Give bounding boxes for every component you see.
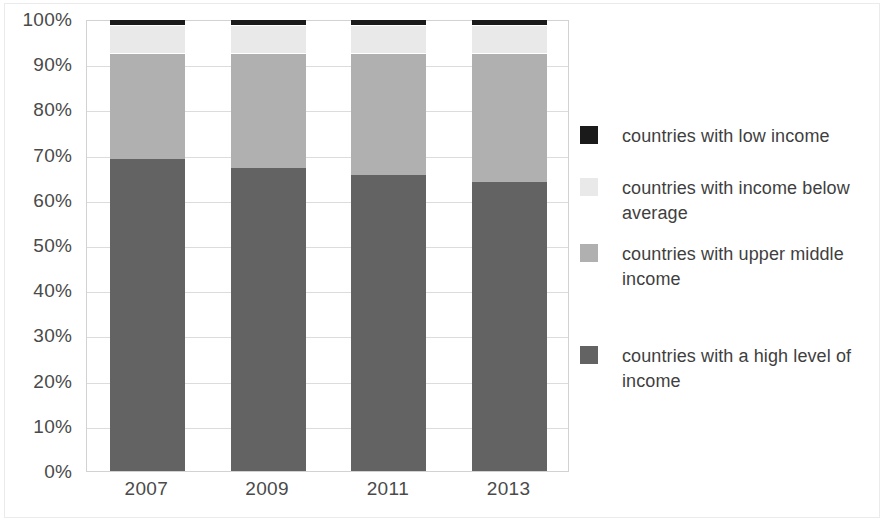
bar-2011[interactable] [351,19,426,471]
bar-segment[interactable] [110,19,185,25]
y-tick-label: 70% [33,145,72,167]
stacked-bar-chart: 0%10%20%30%40%50%60%70%80%90%100% 200720… [0,0,885,524]
bar-segment[interactable] [472,53,547,182]
bar-segment[interactable] [231,19,306,25]
y-tick-label: 40% [33,280,72,302]
bar-segment[interactable] [231,53,306,168]
bar-segment[interactable] [231,25,306,53]
y-tick-label: 90% [33,54,72,76]
bar-segment[interactable] [351,53,426,175]
bar-segment[interactable] [231,168,306,471]
y-axis: 0%10%20%30%40%50%60%70%80%90%100% [0,20,78,472]
legend-item-label: countries with low income [622,124,830,149]
bar-2013[interactable] [472,19,547,471]
legend-swatch-icon [580,178,598,196]
x-axis: 2007200920112013 [86,478,569,512]
bar-2007[interactable] [110,19,185,471]
legend-item[interactable]: countries with a high level of income [580,344,878,394]
x-tick-label: 2011 [367,478,409,500]
y-tick-label: 60% [33,190,72,212]
y-tick-label: 0% [44,461,72,483]
x-tick-label: 2007 [124,478,168,500]
legend-item[interactable]: countries with income below average [580,176,878,226]
legend-swatch-icon [580,126,598,144]
bar-2009[interactable] [231,19,306,471]
legend-item-label: countries with income below average [622,176,878,226]
y-tick-label: 80% [33,99,72,121]
bar-segment[interactable] [351,25,426,53]
bar-segment[interactable] [472,182,547,471]
plot-area [86,20,569,472]
y-tick-label: 50% [33,235,72,257]
bar-segment[interactable] [472,25,547,53]
bar-segment[interactable] [110,25,185,53]
x-tick-label: 2009 [245,478,289,500]
legend-swatch-icon [580,346,598,364]
legend-item-label: countries with a high level of income [622,344,878,394]
legend-item[interactable]: countries with upper middle income [580,242,878,292]
x-tick-label: 2013 [487,478,531,500]
y-tick-label: 20% [33,371,72,393]
y-tick-label: 30% [33,325,72,347]
y-tick-label: 10% [33,416,72,438]
bar-segment[interactable] [472,19,547,25]
bar-segment[interactable] [351,19,426,25]
bar-segment[interactable] [351,175,426,471]
bar-segment[interactable] [110,53,185,159]
legend-item[interactable]: countries with low income [580,124,830,149]
legend-swatch-icon [580,244,598,262]
legend-item-label: countries with upper middle income [622,242,878,292]
bar-segment[interactable] [110,159,185,471]
y-tick-label: 100% [23,9,72,31]
